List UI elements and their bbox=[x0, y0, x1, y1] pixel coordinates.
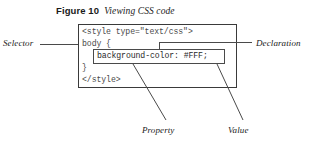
declaration-leader-line bbox=[159, 42, 252, 43]
selector-leader-line bbox=[40, 44, 78, 45]
code-line: <style type="text/css"> bbox=[82, 27, 193, 37]
code-line: </style> bbox=[82, 75, 121, 85]
label-declaration: Declaration bbox=[256, 38, 301, 48]
figure-caption: Figure 10Viewing CSS code bbox=[56, 3, 175, 17]
figure-diagram: Figure 10Viewing CSS code <style type="t… bbox=[0, 0, 315, 143]
label-property: Property bbox=[142, 125, 174, 135]
figure-number: Figure 10 bbox=[56, 5, 99, 16]
label-selector: Selector bbox=[3, 38, 33, 48]
code-line: } bbox=[82, 63, 87, 73]
figure-title: Viewing CSS code bbox=[104, 6, 175, 16]
label-value: Value bbox=[228, 125, 249, 135]
code-line: body { bbox=[82, 39, 111, 49]
declaration-highlight-box bbox=[93, 49, 225, 64]
